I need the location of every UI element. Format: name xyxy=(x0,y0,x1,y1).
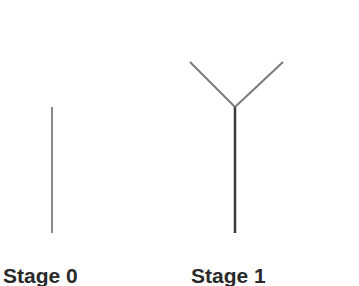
stage-1-figure xyxy=(190,62,283,233)
growth-diagram xyxy=(0,0,359,286)
stage-0-label: Stage 0 xyxy=(3,265,78,286)
stage-1-label: Stage 1 xyxy=(191,265,266,286)
branch-line xyxy=(190,62,235,107)
branch-line xyxy=(235,62,283,107)
